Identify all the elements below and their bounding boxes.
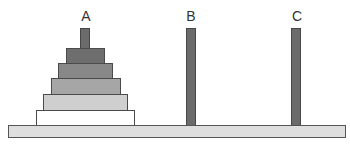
disc-size-1	[66, 48, 105, 64]
base-platform	[8, 125, 346, 138]
disc-size-3	[51, 78, 121, 95]
tower-of-hanoi-diagram: A B C	[0, 0, 350, 149]
disc-size-4	[43, 94, 128, 111]
peg-label-c: C	[287, 8, 307, 24]
peg-b	[186, 28, 196, 126]
peg-label-a: A	[76, 8, 96, 24]
disc-size-2	[58, 63, 113, 79]
disc-size-5	[36, 110, 135, 126]
peg-c	[291, 28, 301, 126]
peg-label-b: B	[181, 8, 201, 24]
